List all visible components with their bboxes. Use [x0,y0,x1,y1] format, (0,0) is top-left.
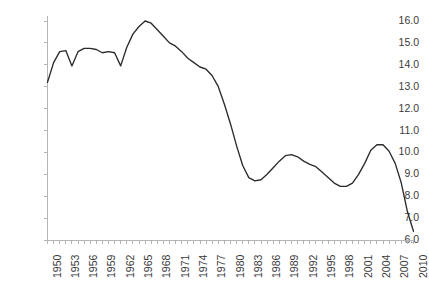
y-tick-marks [44,21,48,240]
data-series-line [48,21,414,231]
x-tick-marks [48,240,414,244]
x-tick-label: 2010 [418,255,428,278]
